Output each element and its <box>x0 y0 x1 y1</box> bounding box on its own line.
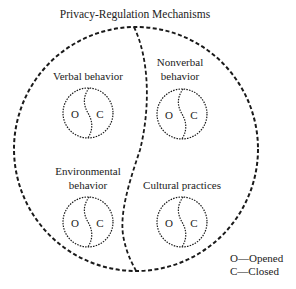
legend-opened: O—Opened <box>230 252 284 264</box>
inner-divider <box>178 197 185 247</box>
inner-divider <box>178 89 185 139</box>
quadrant-label-line2: behavior <box>161 70 200 82</box>
quadrant-label-line2: behavior <box>69 179 108 191</box>
legend: O—Opened C—Closed <box>230 252 284 277</box>
open-label: O <box>165 217 173 229</box>
open-label: O <box>71 217 79 229</box>
legend-closed: C—Closed <box>230 265 279 277</box>
quadrant-label: Verbal behavior <box>53 70 123 82</box>
quadrant-nonverbal-behavior: Nonverbal behavior O C <box>157 56 207 139</box>
open-label: O <box>71 108 79 120</box>
inner-divider <box>84 88 91 138</box>
closed-label: C <box>190 217 197 229</box>
privacy-regulation-diagram: Privacy-Regulation Mechanisms Verbal beh… <box>0 0 296 289</box>
quadrant-verbal-behavior: Verbal behavior O C <box>53 70 123 138</box>
open-label: O <box>165 109 173 121</box>
inner-divider <box>84 197 91 247</box>
outer-circle <box>14 27 258 271</box>
diagram-title: Privacy-Regulation Mechanisms <box>60 8 211 21</box>
closed-label: C <box>96 217 103 229</box>
closed-label: C <box>190 109 197 121</box>
quadrant-label-line1: Nonverbal <box>157 56 203 68</box>
quadrant-environmental-behavior: Environmental behavior O C <box>55 165 120 247</box>
quadrant-cultural-practices: Cultural practices O C <box>143 179 221 247</box>
quadrant-label-line1: Environmental <box>55 165 120 177</box>
quadrant-label: Cultural practices <box>143 179 221 191</box>
divider-curve <box>122 27 146 271</box>
closed-label: C <box>96 108 103 120</box>
